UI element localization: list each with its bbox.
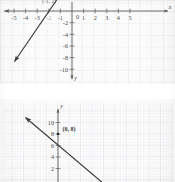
y-tick-label: 2 xyxy=(51,165,54,172)
graph-bottom-svg: 10 8 6 4 2 y (0, 8) xyxy=(0,99,175,182)
point-label-bottom: (0, 8) xyxy=(63,126,76,133)
grid-top xyxy=(0,0,175,84)
y-tick-label: 6 xyxy=(51,142,54,149)
x-tick-label: 3 xyxy=(105,14,108,21)
x-tick-label: 5 xyxy=(128,14,131,21)
y-tick-label: -10 xyxy=(60,66,68,73)
x-axis-label: x xyxy=(168,3,172,10)
x-tick-label: -5 xyxy=(11,14,16,21)
y-axis-label: y xyxy=(73,74,77,81)
x-tick-label: -4 xyxy=(23,14,28,21)
marked-point-0-8 xyxy=(57,133,60,136)
x-tick-label: -3 xyxy=(35,14,40,21)
y-axis-label: y xyxy=(59,102,63,109)
graph-panel-top: -5 -4 -3 -2 -1 0 1 2 3 4 5 -2 -4 -6 -8 -… xyxy=(0,0,175,84)
y-tick-label: 10 xyxy=(48,119,54,126)
graph-top-svg: -5 -4 -3 -2 -1 0 1 2 3 4 5 -2 -4 -6 -8 -… xyxy=(0,0,175,84)
y-tick-label: 4 xyxy=(51,153,54,160)
graph-panel-bottom: 10 8 6 4 2 y (0, 8) xyxy=(0,99,175,182)
panel-gap xyxy=(0,84,175,99)
y-tick-label: -8 xyxy=(63,54,68,61)
x-tick-label: 0 xyxy=(76,13,79,20)
y-tick-label: -2 xyxy=(63,19,68,26)
x-tick-label: 4 xyxy=(117,14,120,21)
worksheet-page: -5 -4 -3 -2 -1 0 1 2 3 4 5 -2 -4 -6 -8 -… xyxy=(0,0,175,182)
x-tick-label: 2 xyxy=(94,14,97,21)
y-tick-label: -6 xyxy=(63,42,68,49)
x-tick-label: -2 xyxy=(46,14,51,21)
y-tick-label: 8 xyxy=(51,130,54,137)
y-tick-label: -4 xyxy=(63,31,68,38)
x-tick-label: 1 xyxy=(82,14,85,21)
